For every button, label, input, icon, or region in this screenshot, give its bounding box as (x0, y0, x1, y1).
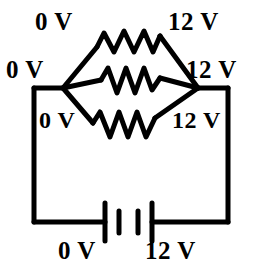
label-battery-negative-voltage: 0 V (58, 238, 96, 263)
label-lower-left-node-voltage: 0 V (39, 108, 75, 132)
label-top-right-node-voltage: 12 V (168, 9, 219, 34)
label-middle-left-node-voltage: 0 V (6, 57, 44, 82)
label-middle-right-node-voltage: 12 V (186, 57, 237, 82)
label-battery-positive-voltage: 12 V (145, 238, 196, 263)
circuit-diagram-figure: 0 V 12 V 0 V 12 V 0 V 12 V 0 V 12 V (0, 0, 254, 274)
label-lower-right-node-voltage: 12 V (172, 108, 221, 132)
resistor-zigzag-bottom (93, 112, 155, 137)
label-top-left-node-voltage: 0 V (35, 9, 73, 34)
resistor-zigzag-middle (101, 68, 160, 93)
circuit-schematic-svg (0, 0, 254, 274)
resistor-zigzag-top (97, 31, 160, 52)
